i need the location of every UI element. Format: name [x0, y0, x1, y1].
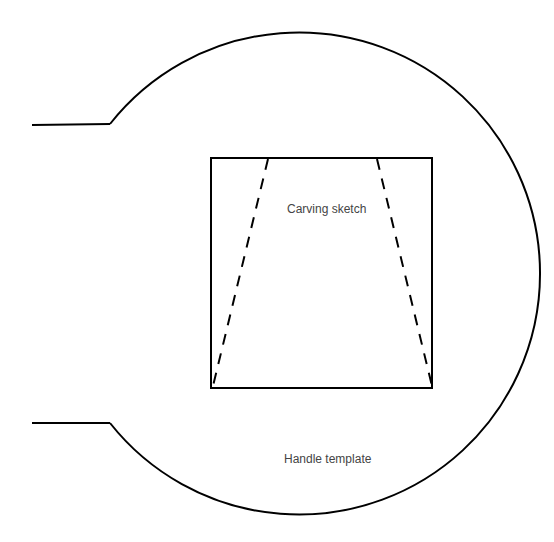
handle-outline — [110, 33, 540, 515]
handle-template-diagram: Carving sketch Handle template — [0, 0, 554, 542]
carving-square — [211, 158, 432, 388]
dashed-taper-left — [213, 159, 268, 386]
dashed-taper-right — [377, 159, 432, 386]
carving-sketch-label: Carving sketch — [287, 202, 366, 216]
handle-template-label: Handle template — [284, 452, 372, 466]
stem-top — [32, 124, 110, 125]
